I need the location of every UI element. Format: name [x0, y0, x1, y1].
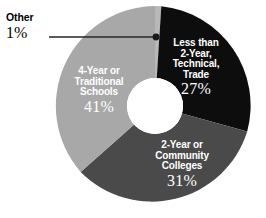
donut-chart: Less than 2-Year, Technical, Trade 27% 2…	[0, 0, 266, 218]
other-leader-dot	[153, 34, 160, 41]
donut-center-hole	[127, 78, 183, 134]
donut-chart-svg	[0, 0, 266, 218]
